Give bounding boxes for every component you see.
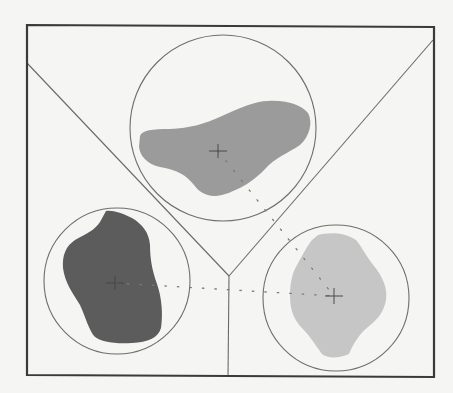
top-region-blob — [139, 101, 310, 196]
left-region-blob — [63, 211, 162, 343]
voronoi-diagram — [0, 0, 453, 393]
vertical-divider — [228, 276, 229, 377]
right-region-blob — [290, 233, 386, 357]
